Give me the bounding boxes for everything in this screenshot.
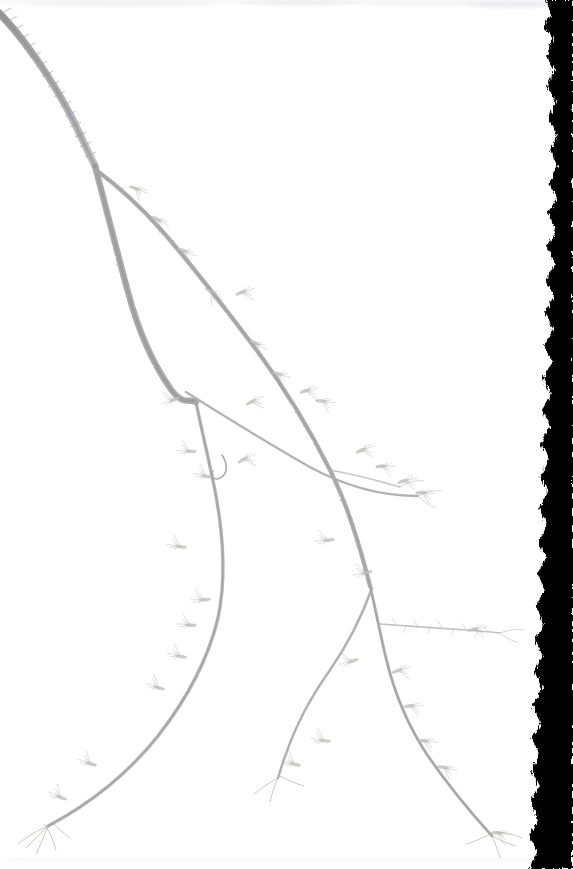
paper-background (0, 0, 573, 869)
specimen-illustration (0, 0, 573, 869)
specimen-scan-canvas: Scanned herbarium sheet showing a slende… (0, 0, 573, 869)
